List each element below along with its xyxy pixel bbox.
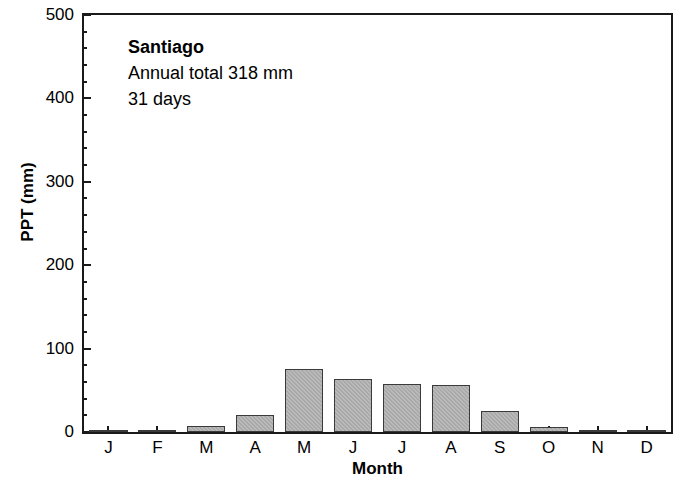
bar-january — [89, 430, 127, 433]
y-axis-major-tick — [82, 181, 91, 183]
y-axis-minor-tick — [82, 298, 87, 300]
chart-annotation-block: Santiago Annual total 318 mm 31 days — [128, 34, 293, 112]
bar-march — [187, 426, 225, 432]
x-axis-tick-label: S — [480, 438, 520, 458]
rain-days-label: 31 days — [128, 86, 293, 112]
y-axis-tick-label: 200 — [8, 256, 74, 273]
y-axis-minor-tick — [82, 81, 87, 83]
y-axis-minor-tick — [82, 364, 87, 366]
x-axis-tick-label: F — [137, 438, 177, 458]
x-axis-tick-label: N — [578, 438, 618, 458]
y-axis-minor-tick — [82, 47, 87, 49]
y-axis-minor-tick — [82, 64, 87, 66]
annual-total-label: Annual total 318 mm — [128, 60, 293, 86]
y-axis-minor-tick — [82, 231, 87, 233]
x-axis-tick-label: A — [431, 438, 471, 458]
x-axis-tick-label: J — [88, 438, 128, 458]
y-axis-tick-label: 100 — [8, 340, 74, 357]
x-axis-tick-label: J — [333, 438, 373, 458]
y-axis-minor-tick — [82, 164, 87, 166]
bar-november — [579, 430, 617, 433]
precipitation-bar-chart: PPT (mm) 0100200300400500 JFMAMJJASOND M… — [0, 0, 681, 491]
bar-april — [236, 415, 274, 432]
y-axis-minor-tick — [82, 414, 87, 416]
y-axis-major-tick — [82, 348, 91, 350]
y-axis-minor-tick — [82, 214, 87, 216]
y-axis-minor-tick — [82, 248, 87, 250]
y-axis-tick-label: 300 — [8, 173, 74, 190]
bar-may — [285, 369, 323, 432]
y-axis-minor-tick — [82, 197, 87, 199]
bar-september — [481, 411, 519, 432]
y-axis-tick-labels: 0100200300400500 — [0, 0, 74, 491]
y-axis-minor-tick — [82, 114, 87, 116]
bar-june — [334, 379, 372, 432]
x-axis-tick-label: D — [627, 438, 667, 458]
y-axis-tick-label: 0 — [8, 423, 74, 440]
y-axis-minor-tick — [82, 131, 87, 133]
y-axis-minor-tick — [82, 31, 87, 33]
y-axis-minor-tick — [82, 381, 87, 383]
bar-august — [432, 385, 470, 432]
bar-october — [530, 427, 568, 432]
station-name-label: Santiago — [128, 34, 293, 60]
x-axis-tick-label: J — [382, 438, 422, 458]
bar-december — [627, 430, 665, 433]
x-axis-tick-label: M — [186, 438, 226, 458]
y-axis-minor-tick — [82, 147, 87, 149]
y-axis-tick-label: 400 — [8, 89, 74, 106]
y-axis-major-tick — [82, 14, 91, 16]
y-axis-minor-tick — [82, 398, 87, 400]
y-axis-minor-tick — [82, 314, 87, 316]
y-axis-major-tick — [82, 97, 91, 99]
x-axis-tick-label: M — [284, 438, 324, 458]
y-axis-tick-label: 500 — [8, 6, 74, 23]
x-axis-title: Month — [82, 459, 673, 479]
y-axis-minor-tick — [82, 281, 87, 283]
x-axis-tick-label: A — [235, 438, 275, 458]
y-axis-major-tick — [82, 264, 91, 266]
x-axis-tick-label: O — [529, 438, 569, 458]
bar-february — [138, 430, 176, 433]
bar-july — [383, 384, 421, 432]
y-axis-minor-tick — [82, 331, 87, 333]
